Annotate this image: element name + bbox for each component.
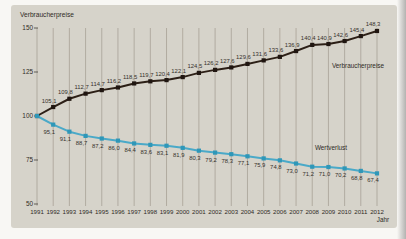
x-tick-label: 2007 [289,208,303,215]
marker-verbraucherpreise [359,34,363,38]
value-label-verbraucherpreise: 119,7 [139,72,153,78]
marker-wertverlust [343,166,347,170]
x-tick-label: 2005 [257,208,271,215]
chart-panel [11,5,397,228]
x-tick-label: 2011 [354,208,368,215]
marker-verbraucherpreise [343,39,347,43]
value-label-wertverlust: 71,2 [303,171,314,177]
value-label-wertverlust: 81,9 [173,152,184,158]
marker-verbraucherpreise [278,55,282,59]
value-label-verbraucherpreise: 127,6 [220,58,235,64]
x-tick-label: 2010 [338,208,352,215]
marker-wertverlust [35,114,39,118]
value-label-verbraucherpreise: 109,8 [58,89,73,95]
x-axis-title: Jahr [377,216,389,223]
marker-wertverlust [148,143,152,147]
marker-wertverlust [359,169,363,173]
x-tick-label: 1994 [79,208,93,215]
value-label-verbraucherpreise: 129,6 [236,54,251,60]
value-label-wertverlust: 83,6 [141,149,153,155]
value-label-verbraucherpreise: 122,1 [171,68,186,74]
marker-verbraucherpreise [51,105,55,109]
x-tick-label: 1991 [30,208,44,215]
value-label-verbraucherpreise: 118,5 [123,74,138,80]
marker-wertverlust [213,151,217,155]
value-label-verbraucherpreise: 136,9 [285,42,300,48]
marker-verbraucherpreise [294,49,298,53]
value-label-verbraucherpreise: 105,1 [42,98,57,104]
marker-wertverlust [164,144,168,148]
marker-wertverlust [375,171,379,175]
marker-verbraucherpreise [245,62,249,66]
value-label-wertverlust: 80,3 [189,155,201,161]
x-tick-label: 2006 [273,208,287,215]
line-chart: 1501251007550105,1109,8112,7114,7116,211… [0,0,406,239]
inplot-label-wertverlust: Wertverlust [315,144,347,151]
marker-verbraucherpreise [164,78,168,82]
marker-verbraucherpreise [83,92,87,96]
x-tick-label: 2000 [176,208,190,215]
x-tick-label: 1996 [111,208,125,215]
x-tick-label: 2003 [225,208,239,215]
marker-wertverlust [245,154,249,158]
value-label-wertverlust: 88,7 [76,140,87,146]
marker-verbraucherpreise [229,65,233,69]
marker-verbraucherpreise [116,85,120,89]
value-label-verbraucherpreise: 140,4 [301,35,316,41]
marker-verbraucherpreise [132,81,136,85]
value-label-wertverlust: 71,0 [319,171,331,177]
value-label-verbraucherpreise: 148,3 [366,21,381,27]
x-tick-label: 2008 [305,208,319,215]
value-label-verbraucherpreise: 126,2 [204,60,219,66]
marker-wertverlust [67,130,71,134]
value-label-wertverlust: 95,1 [43,129,54,135]
marker-wertverlust [116,139,120,143]
marker-wertverlust [326,165,330,169]
x-tick-label: 1995 [95,208,109,215]
marker-verbraucherpreise [326,42,330,46]
marker-wertverlust [294,161,298,165]
marker-verbraucherpreise [213,68,217,72]
marker-wertverlust [278,158,282,162]
value-label-wertverlust: 75,9 [254,162,265,168]
value-label-wertverlust: 70,2 [335,172,346,178]
marker-verbraucherpreise [100,88,104,92]
value-label-wertverlust: 68,8 [351,175,363,181]
marker-verbraucherpreise [67,97,71,101]
marker-verbraucherpreise [262,58,266,62]
marker-verbraucherpreise [197,71,201,75]
marker-wertverlust [83,134,87,138]
x-tick-label: 1999 [160,208,174,215]
value-label-wertverlust: 78,3 [222,158,234,164]
page-edge-shadow [397,0,406,239]
scanned-page: 1501251007550105,1109,8112,7114,7116,211… [0,0,406,239]
value-label-verbraucherpreise: 112,7 [74,84,88,90]
marker-wertverlust [181,146,185,150]
marker-wertverlust [229,152,233,156]
x-tick-label: 2004 [241,208,255,215]
x-tick-label: 2012 [370,208,384,215]
value-label-verbraucherpreise: 133,6 [268,47,283,53]
marker-verbraucherpreise [310,43,314,47]
x-tick-label: 1993 [63,208,77,215]
value-label-wertverlust: 87,2 [92,143,103,149]
marker-verbraucherpreise [375,29,379,33]
axis-title: Verbraucherpreise [20,11,74,19]
value-label-verbraucherpreise: 116,2 [107,78,121,84]
value-label-wertverlust: 84,4 [124,147,136,153]
value-label-verbraucherpreise: 140,9 [317,35,332,41]
y-tick-label: 100 [22,112,33,119]
x-tick-label: 2001 [192,208,206,215]
y-tick-label: 50 [26,200,34,207]
marker-wertverlust [51,123,55,127]
marker-verbraucherpreise [148,79,152,83]
x-tick-label: 2002 [208,208,222,215]
marker-wertverlust [100,136,104,140]
value-label-wertverlust: 79,2 [205,157,216,163]
x-tick-label: 1998 [144,208,158,215]
y-tick-label: 150 [22,24,33,31]
inplot-label-verbraucherpreise: Verbraucherpreise [332,62,385,70]
x-tick-label: 1997 [127,208,141,215]
value-label-wertverlust: 74,8 [270,164,282,170]
value-label-wertverlust: 91,1 [60,136,71,142]
